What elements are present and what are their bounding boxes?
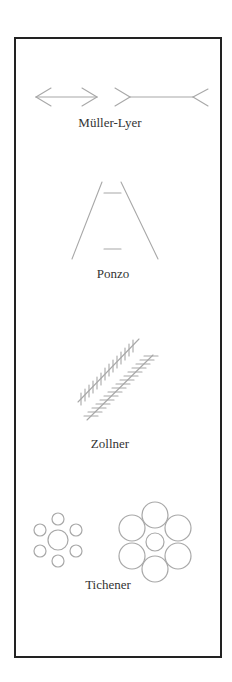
ponzo-figure (72, 182, 158, 259)
ponzo-label: Ponzo (97, 267, 130, 280)
muller-lyer-label: Müller-Lyer (78, 116, 141, 129)
zollner-figure (78, 339, 158, 420)
muller-lyer-outward-figure (36, 88, 97, 106)
tichener-label: Tichener (85, 578, 131, 591)
zollner-label: Zollner (91, 437, 129, 450)
tichener-large-surround-figure (119, 502, 191, 582)
tichener-small-surround-figure (34, 513, 82, 567)
muller-lyer-inward-figure (115, 88, 208, 106)
